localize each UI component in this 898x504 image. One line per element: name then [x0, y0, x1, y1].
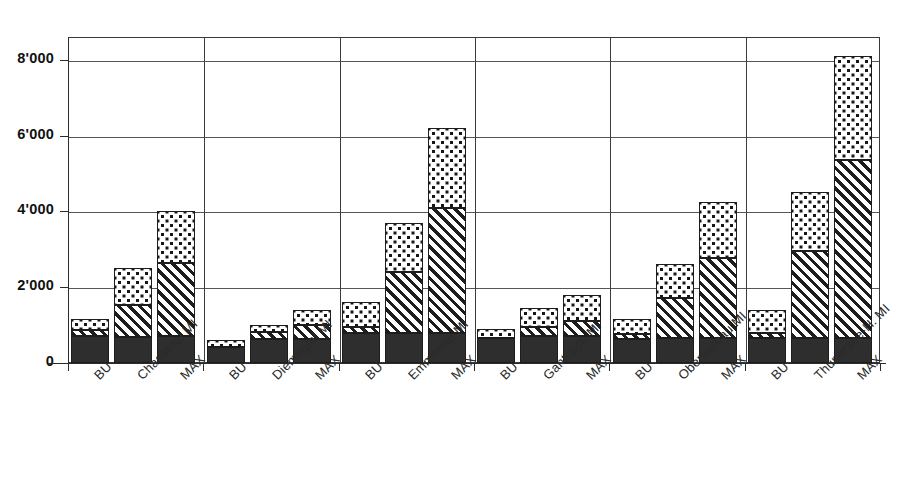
- bar-segment-dots: [656, 264, 694, 297]
- x-axis-tick: [880, 363, 881, 371]
- bar-chasseral-bu[interactable]: [71, 319, 109, 363]
- x-axis-tick: [745, 363, 746, 371]
- bar-segment-hatch: [428, 208, 466, 333]
- group-separator: [610, 38, 611, 362]
- bar-oberaargau-bu[interactable]: [613, 319, 651, 363]
- bar-segment-dots: [613, 319, 651, 333]
- bar-segment-hatch: [385, 272, 423, 333]
- gridline-horizontal: [69, 137, 879, 138]
- bar-oberaargau-mi[interactable]: [656, 264, 694, 363]
- bar-segment-hatch: [114, 305, 152, 337]
- bar-segment-dots: [791, 192, 829, 251]
- y-axis-tick: [60, 60, 69, 61]
- bar-segment-dots: [834, 56, 872, 160]
- x-axis-tick: [203, 363, 204, 371]
- bar-segment-dots: [114, 268, 152, 305]
- bar-thunersee-h--mi[interactable]: [791, 192, 829, 363]
- bar-segment-hatch: [250, 332, 288, 339]
- y-axis-tick-label: 4'000: [17, 201, 54, 217]
- bar-segment-dots: [71, 319, 109, 330]
- bar-gantrisch-mi[interactable]: [520, 308, 558, 363]
- bar-segment-hatch: [520, 327, 558, 336]
- group-separator: [475, 38, 476, 362]
- bar-segment-hatch: [791, 251, 829, 338]
- bar-segment-dots: [748, 310, 786, 333]
- bar-chart: 02'0004'0006'0008'000 BUChasseral MIMAXB…: [0, 0, 898, 504]
- bar-emmental-mi[interactable]: [385, 223, 423, 363]
- x-axis-tick: [339, 363, 340, 371]
- group-separator: [340, 38, 341, 362]
- y-axis-tick: [60, 211, 69, 212]
- y-axis-tick: [60, 136, 69, 137]
- bar-emmental-bu[interactable]: [342, 302, 380, 363]
- cropped-header-text: [0, 0, 898, 12]
- bar-segment-hatch: [834, 160, 872, 338]
- bar-chasseral-mi[interactable]: [114, 268, 152, 363]
- group-separator: [746, 38, 747, 362]
- y-axis-tick: [60, 287, 69, 288]
- y-axis: [68, 37, 69, 363]
- bar-segment-dots: [385, 223, 423, 272]
- y-axis-tick-label: 2'000: [17, 277, 54, 293]
- group-separator: [204, 38, 205, 362]
- x-axis-tick: [474, 363, 475, 371]
- bar-segment-dots: [563, 295, 601, 322]
- x-axis-tick: [609, 363, 610, 371]
- x-axis-tick: [68, 363, 69, 371]
- bar-segment-dots: [477, 329, 515, 338]
- bar-segment-dots: [342, 302, 380, 326]
- y-axis-tick-label: 0: [46, 353, 54, 369]
- bar-segment-dots: [520, 308, 558, 327]
- gridline-horizontal: [69, 61, 879, 62]
- y-axis-tick-label: 6'000: [17, 126, 54, 142]
- bar-segment-hatch: [656, 298, 694, 338]
- bar-segment-dots: [157, 211, 195, 262]
- bar-thunersee-h--bu[interactable]: [748, 310, 786, 363]
- y-axis-tick-label: 8'000: [17, 50, 54, 66]
- bar-segment-dots: [699, 202, 737, 258]
- bar-segment-dots: [428, 128, 466, 208]
